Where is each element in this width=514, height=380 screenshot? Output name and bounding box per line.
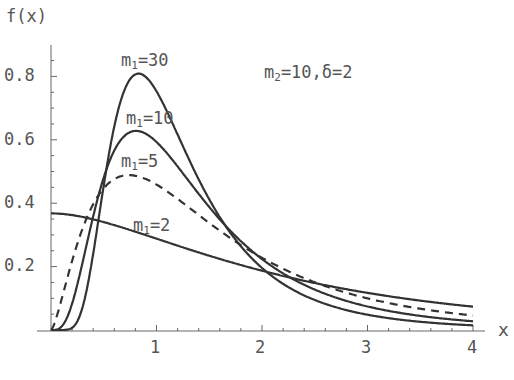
y-axis-label: f(x) — [6, 8, 47, 25]
label-m: m — [121, 50, 131, 70]
series-label-m1-30: m1=30 — [121, 52, 169, 71]
label-m: m — [126, 108, 136, 128]
y-tick-0.6: 0.6 — [4, 131, 35, 148]
label-sub: 1 — [131, 160, 138, 173]
x-tick-1: 1 — [150, 339, 160, 356]
label-sub: 1 — [136, 117, 143, 130]
parameter-annotation: m2=10,δ=2 — [264, 64, 353, 83]
y-tick-0.4: 0.4 — [4, 194, 35, 211]
series-label-m1-10: m1=10 — [126, 110, 174, 129]
x-axis-label: x — [498, 321, 509, 339]
curve-m1-5 — [51, 175, 473, 330]
label-rest: =30 — [138, 50, 169, 70]
label-sub: 1 — [131, 59, 138, 72]
label-m: m — [121, 151, 131, 171]
y-tick-0.8: 0.8 — [4, 67, 35, 84]
label-rest: =5 — [138, 151, 158, 171]
annotation-m: m — [264, 62, 274, 82]
label-m: m — [133, 215, 143, 235]
annotation-sub: 2 — [274, 71, 281, 84]
series-label-m1-5: m1=5 — [121, 153, 158, 172]
series-label-m1-2: m1=2 — [133, 217, 170, 236]
x-tick-2: 2 — [255, 339, 265, 356]
x-tick-4: 4 — [467, 339, 477, 356]
label-sub: 1 — [143, 224, 150, 237]
chart-plot-area — [0, 0, 514, 380]
x-tick-3: 3 — [361, 339, 371, 356]
curve-m1-30 — [51, 74, 473, 330]
y-tick-0.2: 0.2 — [4, 257, 35, 274]
label-rest: =10 — [143, 108, 174, 128]
annotation-rest: =10,δ=2 — [281, 62, 353, 82]
label-rest: =2 — [150, 215, 170, 235]
